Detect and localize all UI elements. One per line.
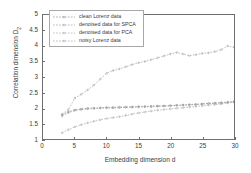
y-tick-mark <box>42 140 45 141</box>
y-axis-title-text: Correlation dimension D <box>12 30 19 99</box>
y-tick-mark <box>42 124 45 125</box>
x-tick-label: 15 <box>129 143 149 149</box>
legend-item-label: clean Lorenz data <box>76 14 121 19</box>
y-tick-mark <box>42 93 45 94</box>
y-tick-mark <box>42 46 45 47</box>
x-tick-label: 0 <box>32 143 52 149</box>
legend-marker-icon <box>52 29 76 37</box>
x-tick-label: 30 <box>225 143 245 149</box>
legend-item: noisy Lorenz data <box>52 37 141 45</box>
x-tick-label: 5 <box>64 143 84 149</box>
legend-item-label: noisy Lorenz data <box>76 38 121 43</box>
x-tick-label: 10 <box>96 143 116 149</box>
legend-item-label: denoised data for SPCA <box>76 22 136 27</box>
x-tick-label: 25 <box>193 143 213 149</box>
legend-item: denoised data for SPCA <box>52 21 141 29</box>
y-tick-mark <box>42 109 45 110</box>
legend-marker-icon <box>52 37 76 45</box>
y-tick-mark <box>42 61 45 62</box>
legend-item: clean Lorenz data <box>52 13 141 21</box>
y-tick-mark <box>42 77 45 78</box>
x-tick-mark <box>74 137 75 140</box>
x-tick-mark <box>235 137 236 140</box>
y-axis-title-subscript: 2 <box>16 27 22 30</box>
legend-marker-icon <box>52 13 76 21</box>
legend-marker-icon <box>52 21 76 29</box>
x-tick-mark <box>203 137 204 140</box>
correlation-dimension-chart: 11.522.533.544.55 051015202530 Correlati… <box>0 0 251 173</box>
legend-item: denoised data for PCA <box>52 29 141 37</box>
x-tick-mark <box>139 137 140 140</box>
y-tick-mark <box>42 14 45 15</box>
y-tick-label: 1.5 <box>16 121 38 127</box>
x-tick-mark <box>42 137 43 140</box>
legend-item-label: denoised data for PCA <box>76 30 132 35</box>
x-axis-title: Embedding dimension d <box>60 156 220 163</box>
legend: clean Lorenz datadenoised data for SPCAd… <box>49 10 144 47</box>
y-axis-title: Correlation dimension D2 <box>12 8 21 118</box>
y-tick-mark <box>42 30 45 31</box>
x-tick-mark <box>171 137 172 140</box>
x-tick-label: 20 <box>161 143 181 149</box>
x-tick-mark <box>106 137 107 140</box>
